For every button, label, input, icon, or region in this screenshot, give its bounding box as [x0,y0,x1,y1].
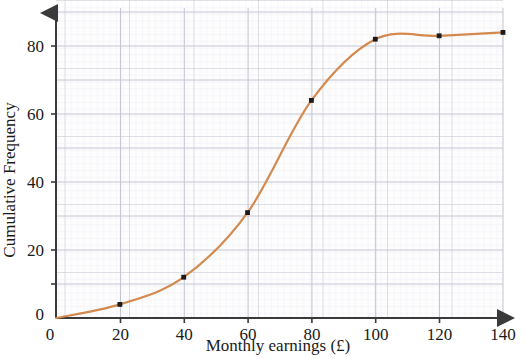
data-point [373,37,378,42]
data-point [181,275,186,280]
y-axis-title: Cumulative Frequency [0,25,11,180]
cumulative-frequency-chart: 80 60 40 20 0 0 20 40 60 80 100 120 140 … [0,0,525,359]
plot-grid [56,0,503,318]
x-axis-title: Monthly earnings (£) [206,337,350,354]
data-point [309,98,314,103]
data-point [245,210,250,215]
x-tick-label-140: 140 [490,326,516,343]
x-tick-label-100: 100 [363,326,389,343]
data-point [437,33,442,38]
chart-canvas [0,0,525,359]
y-tick-label-60: 60 [14,106,44,123]
y-tick-label-0: 0 [14,306,44,323]
x-tick-label-20: 20 [112,326,129,343]
data-point [501,30,506,35]
y-tick-label-40: 40 [14,174,44,191]
y-tick-label-20: 20 [14,242,44,259]
x-tick-label-40: 40 [176,326,193,343]
x-tick-label-0: 0 [46,326,55,343]
x-tick-label-120: 120 [427,326,453,343]
data-point [117,302,122,307]
y-axis-title-text: Cumulative Frequency [1,102,18,257]
y-tick-label-80: 80 [14,38,44,55]
